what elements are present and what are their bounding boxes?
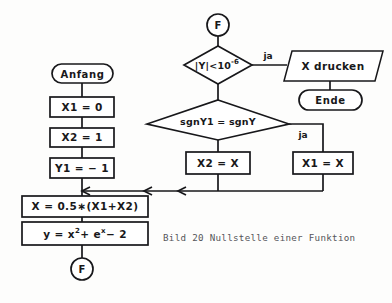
node-print[interactable]: X drucken [284, 51, 383, 81]
start-label: Anfang [61, 69, 105, 80]
node-abs-test[interactable]: |Y|<10-6 [184, 46, 252, 84]
node-init-y1[interactable]: Y1 = − 1 [50, 158, 114, 178]
function-label: y = x2+ ex− 2 [43, 226, 127, 239]
abs-test-yes-label: ja [262, 51, 272, 61]
node-bisection[interactable]: X = 0.5∗(X1+X2) [22, 196, 148, 217]
node-end[interactable]: Ende [299, 90, 362, 110]
function-tail: − 2 [106, 228, 127, 240]
function-mid: + e [80, 228, 101, 240]
node-start[interactable]: Anfang [52, 64, 113, 83]
abs-test-expr: |Y|<10 [195, 59, 231, 70]
node-init-x2[interactable]: X2 = 1 [50, 128, 114, 147]
connector-top[interactable]: F [207, 14, 229, 36]
node-assign-x1[interactable]: X1 = X [293, 152, 353, 174]
sign-test-yes-label: ja [297, 130, 307, 140]
flowchart-page: Anfang X1 = 0 X2 = 1 Y1 = − 1 X = 0.5∗(X… [0, 0, 392, 303]
node-sign-test[interactable]: sgnY1 = sgnY [147, 100, 289, 140]
init-x2-label: X2 = 1 [61, 131, 102, 143]
end-label: Ende [315, 95, 345, 106]
connector-bottom[interactable]: F [71, 258, 93, 280]
assign-x2-label: X2 = X [197, 157, 239, 169]
sign-test-label: sgnY1 = sgnY [180, 116, 256, 127]
connector-bottom-label: F [79, 264, 86, 275]
node-function[interactable]: y = x2+ ex− 2 [22, 222, 148, 245]
print-label: X drucken [301, 60, 364, 72]
init-y1-label: Y1 = − 1 [54, 162, 109, 174]
abs-test-exponent: -6 [231, 57, 239, 65]
node-init-x1[interactable]: X1 = 0 [50, 97, 114, 117]
init-x1-label: X1 = 0 [61, 101, 102, 113]
assign-x1-label: X1 = X [302, 157, 344, 169]
bisection-label: X = 0.5∗(X1+X2) [32, 200, 139, 212]
node-assign-x2[interactable]: X2 = X [186, 152, 250, 174]
function-lhs: y = x [43, 228, 75, 240]
figure-caption: Bild 20 Nullstelle einer Funktion [163, 232, 355, 243]
connector-top-label: F [215, 20, 222, 31]
flowchart-canvas: Anfang X1 = 0 X2 = 1 Y1 = − 1 X = 0.5∗(X… [0, 0, 392, 303]
